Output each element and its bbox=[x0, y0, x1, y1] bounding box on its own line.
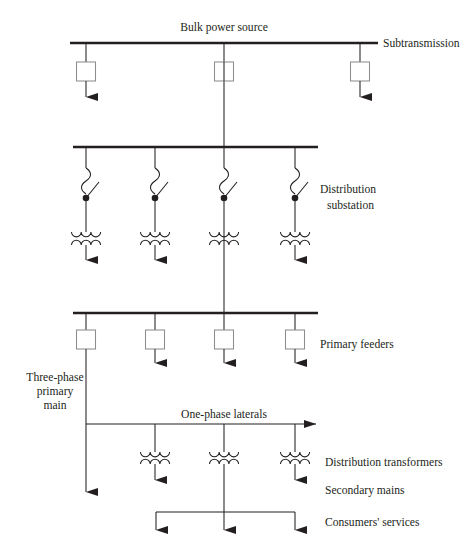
secondary-mains-label: Secondary mains bbox=[325, 484, 405, 497]
primary-feeders-label: Primary feeders bbox=[320, 338, 394, 351]
switch-blade-icon bbox=[295, 182, 308, 198]
bulk-power-source-label: Bulk power source bbox=[180, 21, 268, 34]
one-phase-laterals-label: One-phase laterals bbox=[181, 408, 267, 421]
transformer-icon bbox=[281, 232, 310, 245]
power-distribution-diagram: Bulk power source Subtransmission Distri… bbox=[0, 0, 470, 547]
breaker-box-icon bbox=[351, 62, 370, 81]
subtransmission-drop-3 bbox=[351, 43, 370, 97]
switch-blade-icon bbox=[224, 182, 237, 198]
subtransmission-drop-1 bbox=[77, 43, 96, 97]
primary-feeder-4 bbox=[286, 313, 305, 363]
primary-feeder-2 bbox=[146, 313, 165, 363]
fuse-icon bbox=[220, 168, 229, 194]
three-phase-main-label-line1: Three-phase bbox=[26, 371, 83, 384]
transformer-icon bbox=[72, 232, 101, 245]
breaker-box-icon bbox=[146, 330, 165, 349]
breaker-box-icon bbox=[286, 330, 305, 349]
breaker-box-icon bbox=[77, 330, 96, 349]
fuse-icon bbox=[151, 168, 160, 194]
subtransmission-label: Subtransmission bbox=[383, 37, 460, 50]
distribution-substation-label-line1: Distribution bbox=[320, 183, 376, 196]
subtransmission-drop-2 bbox=[215, 43, 234, 147]
breaker-box-icon bbox=[215, 330, 234, 349]
transformer-icon bbox=[141, 452, 170, 464]
fuse-icon bbox=[82, 168, 91, 194]
switch-blade-icon bbox=[86, 182, 99, 198]
lateral-transformer-2 bbox=[210, 424, 239, 512]
three-phase-main-label-line3: main bbox=[43, 399, 66, 412]
substation-feeder-3 bbox=[210, 147, 239, 313]
substation-feeder-4 bbox=[281, 147, 310, 260]
fuse-icon bbox=[291, 168, 300, 194]
lateral-transformer-1 bbox=[141, 424, 170, 480]
distribution-transformers-label: Distribution transformers bbox=[325, 456, 443, 469]
transformer-icon bbox=[281, 452, 310, 464]
primary-feeder-1 bbox=[77, 313, 96, 492]
transformer-icon bbox=[141, 232, 170, 245]
primary-feeder-3 bbox=[215, 313, 234, 363]
transformer-icon bbox=[210, 452, 239, 464]
substation-feeder-2 bbox=[141, 147, 170, 260]
three-phase-main-label-line2: primary bbox=[37, 385, 74, 398]
distribution-substation-label-line2: substation bbox=[327, 199, 374, 212]
diagram-canvas: Bulk power source Subtransmission Distri… bbox=[0, 0, 470, 547]
consumers-services-label: Consumers' services bbox=[325, 516, 420, 529]
substation-feeder-1 bbox=[72, 147, 101, 260]
breaker-box-icon bbox=[77, 62, 96, 81]
lateral-transformer-3 bbox=[281, 424, 310, 480]
switch-blade-icon bbox=[155, 182, 168, 198]
